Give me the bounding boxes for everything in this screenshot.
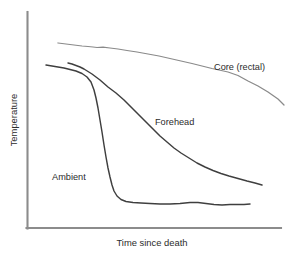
y-axis-title: Temperature <box>8 94 19 147</box>
ambient-label: Ambient <box>52 172 86 182</box>
x-axis-title: Time since death <box>116 237 187 248</box>
temperature-decay-chart: Core (rectal) Forehead Ambient Time sinc… <box>0 0 294 259</box>
core-rectal-label: Core (rectal) <box>214 62 265 72</box>
forehead-label: Forehead <box>155 117 194 127</box>
chart-canvas: Core (rectal) Forehead Ambient Time sinc… <box>0 0 294 259</box>
ambient-curve <box>46 65 250 205</box>
